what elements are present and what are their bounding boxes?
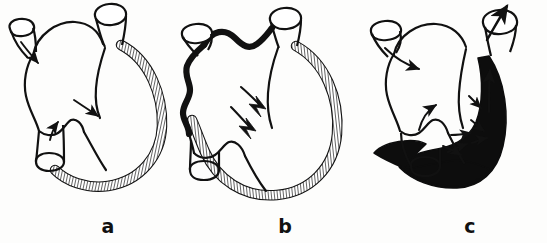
- panel-a-label: a: [102, 215, 115, 237]
- figure-background: [0, 0, 547, 243]
- heart-wall-figure: a: [0, 0, 547, 243]
- figure-canvas: a: [0, 0, 547, 243]
- panel-c-ascending-flow-arrow: [489, 70, 490, 112]
- panel-b-label: b: [278, 215, 292, 237]
- panel-c-label: c: [464, 215, 475, 237]
